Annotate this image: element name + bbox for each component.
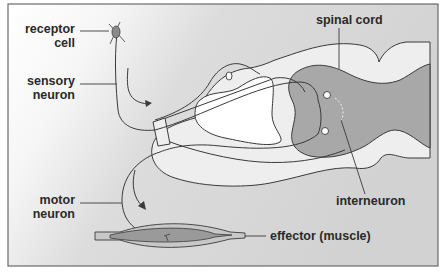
reflex-arc-diagram: receptor cell sensory neuron spinal cord… [0, 0, 446, 276]
label-interneuron: interneuron [336, 194, 405, 208]
label-spinal-cord: spinal cord [316, 13, 383, 27]
label-sensory-neuron: sensory neuron [16, 74, 75, 102]
label-effector: effector (muscle) [270, 229, 371, 243]
motor-cell-body [322, 128, 329, 135]
label-motor-neuron: motor neuron [16, 193, 75, 221]
ganglion-cell-body [226, 72, 232, 80]
interneuron-cell-body-upper [324, 92, 331, 99]
label-receptor-cell: receptor cell [16, 22, 75, 50]
